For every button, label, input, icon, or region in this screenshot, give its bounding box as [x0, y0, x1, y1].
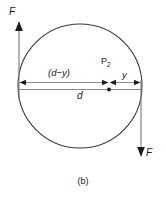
force-label-bottom: F	[146, 148, 152, 158]
point-label-p2: P2	[101, 57, 111, 68]
force-label-top: F	[9, 7, 15, 17]
figure-container: F F (d−y) y d P2 (b)	[0, 0, 166, 197]
dimension-label-d-minus-y: (d−y)	[48, 68, 70, 78]
figure-caption: (b)	[0, 176, 166, 186]
point-p2-marker	[107, 88, 111, 92]
diagram-canvas	[0, 0, 166, 197]
point-label-p2-subscript: 2	[107, 61, 111, 68]
body-circle	[18, 24, 142, 148]
dimension-label-y: y	[122, 70, 127, 80]
dimension-label-d: d	[77, 91, 83, 101]
